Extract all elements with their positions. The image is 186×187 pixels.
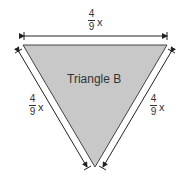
top-numerator: 4 bbox=[89, 9, 95, 19]
left-side-label: 4 9 x bbox=[29, 94, 44, 117]
right-side-label: 4 9 x bbox=[150, 94, 165, 117]
top-variable: x bbox=[97, 16, 103, 28]
left-numerator: 4 bbox=[30, 94, 36, 104]
right-numerator: 4 bbox=[151, 94, 157, 104]
right-denominator: 9 bbox=[151, 107, 157, 117]
right-variable: x bbox=[159, 101, 165, 113]
left-variable: x bbox=[38, 101, 44, 113]
left-denominator: 9 bbox=[30, 107, 36, 117]
triangle-b-shape bbox=[23, 45, 167, 167]
top-dimension-arrow bbox=[24, 32, 167, 40]
top-denominator: 9 bbox=[89, 22, 95, 32]
triangle-title: Triangle B bbox=[67, 72, 121, 86]
top-side-label: 4 9 x bbox=[88, 9, 103, 32]
